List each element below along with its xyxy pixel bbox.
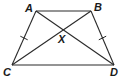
- label-d: D: [110, 66, 118, 78]
- label-b: B: [94, 1, 102, 13]
- label-x: X: [57, 33, 66, 45]
- label-a: A: [24, 2, 33, 14]
- trapezoid-diagram: A B C D X: [0, 0, 121, 78]
- label-c: C: [3, 66, 12, 78]
